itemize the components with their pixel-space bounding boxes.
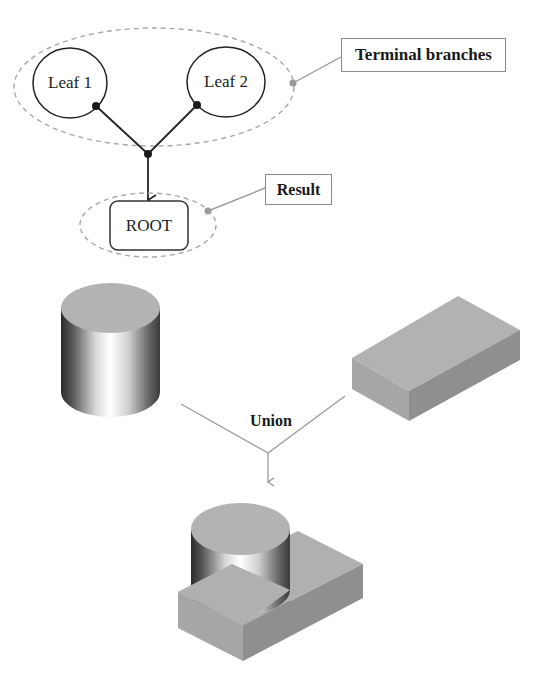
terminal-branches-callout-dot xyxy=(290,80,297,87)
terminal-branches-callout-text: Terminal branches xyxy=(355,45,492,65)
edge-leaf1-junction xyxy=(96,106,148,154)
terminal-branches-callout: Terminal branches xyxy=(341,38,506,72)
leaf-1-port-dot xyxy=(92,102,100,110)
result-callout: Result xyxy=(265,174,332,205)
leaf-2-port-dot xyxy=(193,101,201,109)
result-callout-line xyxy=(208,188,265,211)
terminal-branches-callout-line xyxy=(293,57,341,83)
union-result-solid xyxy=(178,503,363,661)
result-callout-dot xyxy=(205,208,212,215)
input-cylinder xyxy=(61,283,160,417)
diagram-canvas xyxy=(0,0,545,680)
edge-leaf2-junction xyxy=(148,105,197,154)
union-operation-label: Union xyxy=(250,412,292,430)
root-label: ROOT xyxy=(126,216,172,236)
leaf-1-label: Leaf 1 xyxy=(48,73,92,93)
tree-diagram xyxy=(14,28,341,257)
input-box xyxy=(352,296,520,421)
result-callout-text: Result xyxy=(277,181,321,199)
csg-diagram xyxy=(61,283,520,661)
leaf-2-label: Leaf 2 xyxy=(204,72,248,92)
